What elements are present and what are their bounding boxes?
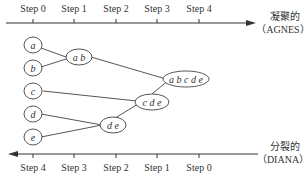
edge-b-ab	[41, 59, 66, 67]
diana-axis: Step 4 Step 3 Step 2 Step 1 Step 0 分裂的 （…	[8, 140, 308, 173]
diana-step-label: Step 2	[103, 162, 128, 173]
diana-step-label: Step 4	[20, 162, 45, 173]
agnes-step-label: Step 0	[20, 3, 45, 14]
node-b-label: b	[31, 63, 36, 74]
node-c-label: c	[31, 86, 36, 97]
diana-step-label: Step 1	[144, 162, 169, 173]
node-ab: a b	[66, 49, 92, 65]
node-abcde-label: a b c d e	[169, 74, 203, 85]
edge-d-de	[41, 114, 102, 125]
node-a: a	[24, 37, 42, 53]
agnes-arrow-icon	[246, 20, 256, 26]
agnes-axis: Step 0 Step 1 Step 2 Step 3 Step 4 凝聚的 （…	[6, 3, 308, 35]
node-e-label: e	[31, 132, 36, 143]
node-de: d e	[100, 117, 126, 133]
node-c: c	[24, 83, 42, 99]
edge-c-cde	[43, 91, 137, 101]
agnes-step-label: Step 2	[103, 3, 128, 14]
node-cde-label: c d e	[143, 97, 162, 108]
node-ab-label: a b	[73, 52, 86, 63]
edge-a-ab	[41, 48, 66, 57]
agnes-step-label: Step 1	[61, 3, 86, 14]
node-d: d	[24, 106, 42, 122]
diana-label-abbr: （DIANA）	[257, 154, 308, 165]
agnes-step-label: Step 4	[186, 3, 211, 14]
agnes-step-label: Step 3	[144, 3, 169, 14]
node-abcde: a b c d e	[163, 71, 209, 87]
agnes-label: 凝聚的	[270, 10, 300, 22]
node-cde: c d e	[135, 94, 169, 110]
node-e: e	[24, 129, 42, 145]
node-de-label: d e	[107, 120, 120, 131]
diana-step-label: Step 3	[61, 162, 86, 173]
node-a-label: a	[31, 40, 36, 51]
diana-step-label: Step 0	[186, 162, 211, 173]
node-b: b	[24, 60, 42, 76]
diana-label: 分裂的	[270, 140, 300, 152]
edge-e-de	[41, 125, 102, 137]
hierarchical-clustering-diagram: Step 0 Step 1 Step 2 Step 3 Step 4 凝聚的 （…	[0, 0, 308, 185]
diana-arrow-icon	[8, 151, 18, 157]
edge-ab-abcde	[91, 57, 166, 79]
agnes-label-abbr: （AGNES）	[256, 24, 308, 35]
